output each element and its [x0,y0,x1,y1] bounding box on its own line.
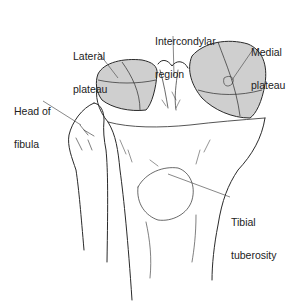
label-line: Head of [14,106,51,117]
label-head-of-fibula: Head of fibula [14,84,51,161]
label-medial-plateau: Medial plateau [251,25,285,102]
label-line: plateau [251,80,285,91]
label-tibial-tuberosity: Tibial tuberosity [231,195,277,272]
label-lateral-plateau: Lateral plateau [73,29,107,106]
label-line: Tibial [231,217,277,228]
label-line: Medial [251,47,285,58]
label-line: fibula [14,139,51,150]
label-line: region [155,69,216,80]
label-line: Lateral [73,51,107,62]
label-line: plateau [73,84,107,95]
label-line: tuberosity [231,250,277,261]
label-line: Intercondylar [155,36,216,47]
label-intercondylar-region: Intercondylar region [155,14,216,91]
fibula [69,103,108,262]
